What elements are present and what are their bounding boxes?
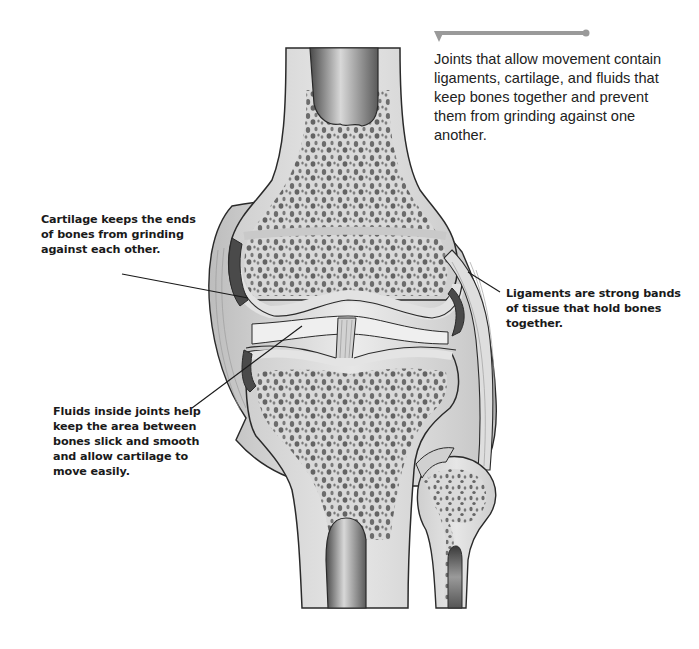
knee-joint-diagram: Joints that allow movement contain ligam… bbox=[0, 0, 699, 649]
femur-marrow-cavity bbox=[310, 48, 378, 126]
fibula-marrow-cavity bbox=[448, 546, 462, 608]
fluids-label: Fluids inside joints help keep the area … bbox=[53, 404, 223, 479]
intro-text: Joints that allow movement contain ligam… bbox=[434, 50, 684, 145]
callout-bar-decoration bbox=[434, 28, 592, 44]
tibia-marrow-cavity bbox=[326, 518, 366, 608]
ligaments-label: Ligaments are strong bands of tissue tha… bbox=[506, 286, 696, 331]
cartilage-label: Cartilage keeps the ends of bones from g… bbox=[41, 212, 201, 257]
